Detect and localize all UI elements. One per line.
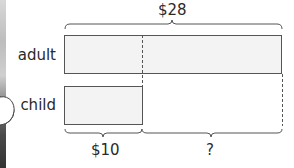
bar-model-diagram: $28 adult child $10 ? [0,0,294,168]
page-edge-strip [0,0,6,168]
total-label: $28 [158,3,187,18]
child-amount-brace [65,129,142,137]
child-amount-label: $10 [91,143,120,158]
difference-label: ? [206,143,214,158]
row-label-child: child [4,98,56,113]
diagram-graphics [0,0,294,168]
adult-bar [65,36,282,74]
total-brace [65,20,282,29]
child-bar [65,87,143,125]
difference-brace [142,129,282,137]
row-label-adult: adult [4,48,56,63]
